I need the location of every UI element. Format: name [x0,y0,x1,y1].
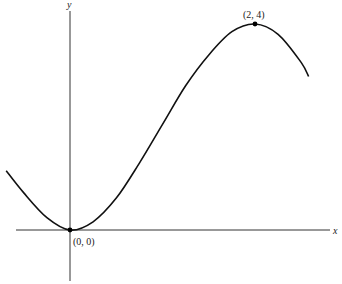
graph-figure: x y (0, 0)(2, 4) [0,0,342,284]
function-curve [6,24,308,230]
y-axis-label: y [66,0,72,10]
point-label: (2, 4) [243,9,265,21]
point-marker [68,228,73,233]
x-axis-label: x [332,225,338,236]
point-label: (0, 0) [73,236,95,248]
point-marker [253,22,258,27]
